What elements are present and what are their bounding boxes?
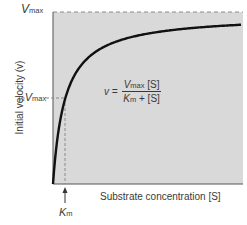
eq-fraction: Vmax [S] Km + [S]: [122, 79, 162, 104]
vmax-v: V: [21, 2, 29, 16]
vmax-sub: max: [29, 6, 43, 15]
half-sub: max: [32, 94, 46, 103]
eq-den-k: K: [123, 93, 130, 104]
eq-den-rest: + [S]: [136, 93, 160, 104]
eq-num-s: [S]: [144, 79, 159, 90]
eq-num-sub: max: [130, 81, 144, 90]
eq-denominator: Km + [S]: [123, 92, 160, 104]
michaelis-menten-equation: v = Vmax [S] Km + [S]: [104, 79, 161, 104]
eq-lhs: v =: [104, 86, 118, 97]
vmax-label: Vmax: [21, 2, 43, 16]
km-sub: m: [66, 209, 72, 218]
half-v: V: [25, 91, 32, 103]
y-axis-label: Initial velocity (v): [14, 43, 25, 153]
km-arrowhead-icon: [63, 187, 68, 193]
eq-numerator: Vmax [S]: [122, 79, 162, 92]
x-axis-label: Substrate concentration [S]: [100, 191, 221, 202]
km-label: Km: [59, 206, 73, 218]
